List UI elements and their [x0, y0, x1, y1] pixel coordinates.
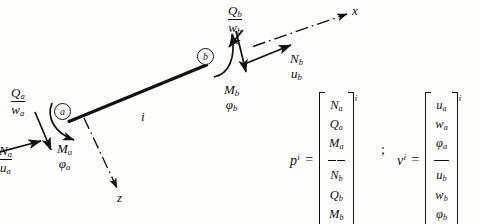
x-axis-line — [253, 14, 347, 47]
vector-row-phia: φa — [436, 135, 447, 154]
vector-partition-rule — [435, 154, 447, 167]
displacement-vector-body: ua wa φa ub wb φb — [425, 92, 457, 224]
force-vector-exponent: i — [355, 93, 358, 103]
vector-row-Qa: Qa — [330, 115, 343, 134]
label-Qb-wb: Qb wb — [228, 4, 242, 35]
z-axis-label: z — [117, 191, 122, 204]
displacement-vector-lhs: vi — [397, 152, 411, 169]
vector-row-ua: ua — [436, 96, 446, 115]
x-axis-label: x — [352, 4, 358, 17]
moment-arc-Mb — [214, 34, 233, 77]
node-b-badge: b — [197, 48, 214, 65]
z-axis-line — [84, 118, 117, 188]
label-ub: ub — [291, 67, 302, 82]
label-Na-ua: Na ua — [0, 144, 12, 175]
label-wb: wb — [228, 21, 241, 36]
label-phia: φa — [59, 157, 71, 172]
node-b-label: b — [203, 51, 208, 62]
vector-row-Nb: Nb — [330, 167, 342, 186]
equation-separator: ; — [381, 142, 385, 158]
label-Qa: Qa — [11, 86, 25, 101]
force-arrow-Qa — [35, 112, 51, 150]
force-vector-equals: = — [305, 152, 319, 168]
vector-partition-rule — [329, 154, 344, 167]
label-ua: ua — [0, 161, 11, 176]
label-phib: φb — [226, 98, 238, 113]
displacement-vector-bracket: ua wa φa ub wb φb i — [425, 92, 461, 224]
displacement-vector-equals: = — [411, 152, 425, 168]
element-label-i: i — [141, 110, 145, 123]
beam-element-line — [69, 65, 207, 122]
diagram-canvas: a b i x z Qa wa Na ua Ma φa Qb wb Nb ub … — [0, 0, 482, 224]
vector-row-wb: wb — [435, 186, 447, 205]
displacement-vector-equation: vi = ua wa φa ub wb φb i — [397, 92, 461, 224]
label-Mb-phib: Mb φb — [224, 83, 239, 112]
label-Na: Na — [0, 144, 12, 159]
force-vector-body: Na Qa Ma Nb Qb Mb — [319, 92, 354, 224]
label-Mb: Mb — [224, 83, 239, 98]
label-Qb: Qb — [228, 4, 242, 19]
label-Qa-wa: Qa wa — [11, 86, 25, 117]
vector-row-ub: ub — [436, 167, 446, 186]
vector-row-Ma: Ma — [329, 135, 344, 154]
force-vector-lhs: pi — [290, 152, 305, 169]
force-vector-equation: pi = Na Qa Ma Nb Qb Mb i — [290, 92, 357, 224]
force-arrow-Nb — [247, 45, 291, 63]
node-a-label: a — [60, 106, 65, 117]
label-Nb: Nb — [290, 52, 303, 67]
vector-row-Mb: Mb — [329, 205, 344, 224]
force-vector-bracket: Na Qa Ma Nb Qb Mb i — [319, 92, 357, 224]
vector-row-Na: Na — [330, 96, 342, 115]
displacement-vector-exponent: i — [459, 93, 462, 103]
label-Ma-phia: Ma φa — [57, 142, 72, 171]
force-arrow-Qb-2 — [236, 31, 246, 72]
label-Ma: Ma — [57, 142, 72, 157]
label-Nb-ub: Nb ub — [290, 52, 303, 81]
label-wa: wa — [11, 103, 24, 118]
vector-row-phib: φb — [436, 205, 447, 224]
vector-row-Qb: Qb — [330, 186, 343, 205]
vector-row-wa: wa — [435, 115, 447, 134]
node-a-badge: a — [54, 103, 71, 120]
